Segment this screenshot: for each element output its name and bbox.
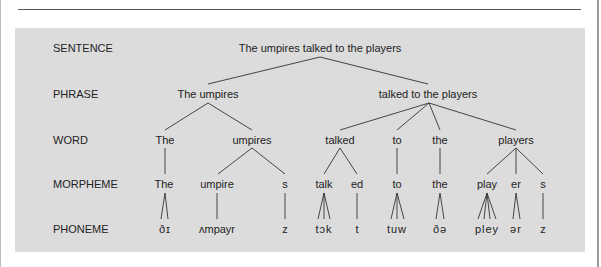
phrase-node: The umpires bbox=[177, 88, 238, 101]
morpheme-node: umpire bbox=[200, 178, 234, 191]
morpheme-node: er bbox=[511, 178, 521, 191]
level-label-word: WORD bbox=[53, 134, 88, 147]
phoneme-node: tɔk bbox=[315, 223, 332, 236]
phoneme-node: ʌmpayr bbox=[199, 223, 235, 236]
sentence-node: The umpires talked to the players bbox=[239, 42, 402, 55]
phoneme-node: tuw bbox=[387, 223, 407, 236]
level-label-morpheme: MORPHEME bbox=[53, 178, 118, 191]
phoneme-node: pley bbox=[475, 223, 499, 236]
morpheme-node: s bbox=[540, 178, 546, 191]
word-node: the bbox=[432, 134, 447, 147]
word-node: talked bbox=[325, 134, 354, 147]
morpheme-node: s bbox=[282, 178, 288, 191]
level-label-sentence: SENTENCE bbox=[53, 42, 113, 55]
morpheme-node: ed bbox=[351, 178, 363, 191]
morpheme-node: to bbox=[392, 178, 401, 191]
phoneme-node: t bbox=[355, 223, 358, 236]
phoneme-node: z bbox=[540, 223, 546, 236]
morpheme-node: The bbox=[155, 178, 174, 191]
level-label-phrase: PHRASE bbox=[53, 88, 98, 101]
phoneme-node: z bbox=[282, 223, 288, 236]
morpheme-node: talk bbox=[315, 178, 332, 191]
phoneme-node: ðə bbox=[433, 223, 447, 236]
level-label-phoneme: PHONEME bbox=[53, 223, 109, 236]
word-node: players bbox=[498, 134, 533, 147]
phrase-node: talked to the players bbox=[379, 88, 477, 101]
phoneme-node: ər bbox=[510, 223, 522, 236]
word-node: to bbox=[392, 134, 401, 147]
morpheme-node: the bbox=[432, 178, 447, 191]
phoneme-node: ðɪ bbox=[159, 223, 171, 236]
word-node: The bbox=[156, 134, 175, 147]
word-node: umpires bbox=[232, 134, 271, 147]
morpheme-node: play bbox=[477, 178, 497, 191]
